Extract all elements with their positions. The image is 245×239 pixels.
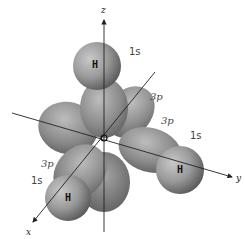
orbital-diagram-svg xyxy=(0,0,245,239)
orbital-label-3p-x: 3p xyxy=(41,159,54,169)
orbital-label-1s-bottom-left: 1s xyxy=(31,176,43,186)
orbital-diagram: z y x H H H 1s 1s 1s 3p 3p 3p xyxy=(0,0,245,239)
h-label-bottom-left: H xyxy=(65,193,71,203)
z-axis-label: z xyxy=(101,6,106,15)
orbital-label-3p-y: 3p xyxy=(161,116,174,126)
orbital-label-1s-right: 1s xyxy=(190,131,202,141)
x-axis-label: x xyxy=(26,228,31,237)
h-label-top: H xyxy=(92,60,98,70)
h-label-right: H xyxy=(177,165,183,175)
orbital-label-1s-top: 1s xyxy=(129,47,141,57)
orbital-label-3p-z: 3p xyxy=(150,92,163,102)
y-axis-label: y xyxy=(236,174,241,183)
